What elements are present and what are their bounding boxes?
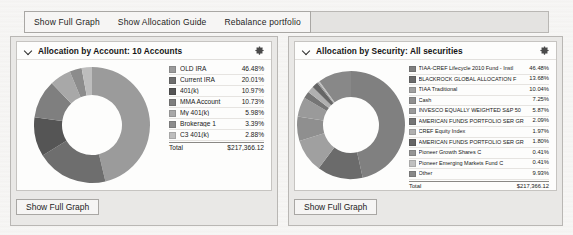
security-legend-value: 1.97% (524, 129, 549, 135)
account-swatch-icon (169, 132, 176, 139)
list-item[interactable]: My 401(k)5.98% (169, 108, 264, 119)
security-legend-label: Cash (419, 98, 525, 104)
account-legend-value: 2.88% (234, 132, 264, 139)
show-allocation-guide-button[interactable]: Show Allocation Guide (109, 11, 217, 33)
list-item[interactable]: Pioneer Growth Shares C0.41% (409, 148, 549, 159)
security-legend-value: 1.80% (524, 139, 549, 145)
security-legend-label: Pioneer Growth Shares C (419, 150, 525, 156)
security-panel-footer: Show Full Graph (294, 194, 557, 220)
security-legend-value: 2.09% (524, 118, 549, 124)
account-legend-label: Brokerage 1 (180, 121, 234, 128)
account-legend-label: MMA Account (180, 99, 234, 106)
account-swatch-icon (169, 121, 176, 128)
account-show-full-graph-button[interactable]: Show Full Graph (16, 199, 99, 215)
account-donut-chart[interactable] (33, 66, 151, 184)
list-item[interactable]: Cash7.25% (409, 96, 549, 107)
allocation-by-security-body: TIAA-CREF Lifecycle 2010 Fund - Instl46.… (295, 60, 556, 190)
list-item[interactable]: MMA Account10.73% (169, 97, 264, 108)
account-legend-value: 20.01% (234, 77, 264, 84)
security-legend-label: Other (419, 171, 525, 177)
list-item[interactable]: Brokerage 13.39% (169, 119, 264, 130)
account-legend-value: 3.39% (234, 121, 264, 128)
security-legend-value: 9.93% (524, 171, 549, 177)
security-show-full-graph-button[interactable]: Show Full Graph (294, 199, 377, 215)
security-swatch-icon (409, 150, 416, 157)
list-item[interactable]: TIAA Traditional10.04% (409, 85, 549, 96)
allocation-by-security-card: Allocation by Security: All securities T… (294, 41, 557, 191)
security-legend-value: 10.04% (524, 87, 549, 93)
account-swatch-icon (169, 99, 176, 106)
account-total-value: $217,366.12 (212, 145, 264, 152)
chevron-down-icon[interactable] (302, 46, 311, 55)
account-legend-value: 10.97% (234, 88, 264, 95)
security-swatch-icon (409, 76, 416, 83)
list-item[interactable]: Pioneer Emerging Markets Fund C0.41% (409, 159, 549, 170)
list-item[interactable]: Other9.93% (409, 169, 549, 180)
list-item[interactable]: CREF Equity Index1.97% (409, 127, 549, 138)
security-legend-label: INVESCO EQUALLY WEIGHTED S&P 50 (419, 108, 525, 114)
top-toolbar: Show Full Graph Show Allocation Guide Re… (24, 11, 549, 33)
account-legend-label: OLD IRA (180, 66, 234, 73)
allocation-by-account-panel: Allocation by Account: 10 Accounts OLD I… (10, 36, 278, 226)
list-item[interactable]: INVESCO EQUALLY WEIGHTED S&P 505.87% (409, 106, 549, 117)
account-legend: OLD IRA46.48%Current IRA20.01%401(k)10.9… (167, 60, 271, 190)
list-item[interactable]: TIAA-CREF Lifecycle 2010 Fund - Instl46.… (409, 64, 549, 75)
account-legend-value: 46.48% (234, 66, 264, 73)
allocation-by-account-body: OLD IRA46.48%Current IRA20.01%401(k)10.9… (17, 60, 271, 190)
security-legend-label: BLACKROCK GLOBAL ALLOCATION F (419, 77, 525, 83)
gear-icon[interactable] (539, 45, 550, 56)
allocation-by-account-card: Allocation by Account: 10 Accounts OLD I… (16, 41, 272, 191)
account-donut-chart-wrap (17, 60, 167, 190)
page-title: Allocation by Account: 10 Accounts (38, 46, 182, 56)
security-swatch-icon (409, 118, 416, 125)
security-donut-chart[interactable] (296, 70, 406, 180)
security-legend-value: 46.48% (524, 66, 549, 72)
account-swatch-icon (169, 77, 176, 84)
account-panel-footer: Show Full Graph (16, 194, 272, 220)
security-legend-label: CREF Equity Index (419, 129, 525, 135)
account-legend-label: My 401(k) (180, 110, 234, 117)
account-swatch-icon (169, 66, 176, 73)
security-legend-label: TIAA Traditional (419, 87, 525, 93)
security-legend-value: 0.41% (524, 150, 549, 156)
account-legend-label: C3 401(k) (180, 132, 234, 139)
page-title: Allocation by Security: All securities (316, 46, 463, 56)
security-total-row: Total $217,366.12 (409, 181, 549, 191)
security-total-value: $217,366.12 (501, 184, 549, 190)
security-legend-label: Pioneer Emerging Markets Fund C (419, 161, 525, 167)
chevron-down-icon[interactable] (24, 46, 33, 55)
security-swatch-icon (409, 139, 416, 146)
security-legend-value: 5.87% (524, 108, 549, 114)
security-legend-value: 13.68% (524, 76, 549, 82)
list-item[interactable]: BLACKROCK GLOBAL ALLOCATION F13.68% (409, 75, 549, 86)
security-total-label: Total (409, 184, 501, 190)
list-item[interactable]: OLD IRA46.48% (169, 64, 264, 75)
security-legend-value: 0.41% (524, 160, 549, 166)
gear-icon[interactable] (254, 45, 265, 56)
list-item[interactable]: AMERICAN FUNDS PORTFOLIO SER GR2.09% (409, 117, 549, 128)
security-swatch-icon (409, 160, 416, 167)
security-swatch-icon (409, 129, 416, 136)
security-donut-chart-wrap (295, 60, 407, 190)
account-legend-label: 401(k) (180, 88, 234, 95)
allocation-by-security-header: Allocation by Security: All securities (295, 42, 556, 60)
list-item[interactable]: C3 401(k)2.88% (169, 130, 264, 141)
security-swatch-icon (409, 66, 416, 73)
list-item[interactable]: Current IRA20.01% (169, 75, 264, 86)
rebalance-portfolio-button[interactable]: Rebalance portfolio (215, 11, 310, 33)
allocation-by-security-panel: Allocation by Security: All securities T… (288, 36, 563, 226)
security-swatch-icon (409, 171, 416, 178)
security-swatch-icon (409, 97, 416, 104)
account-swatch-icon (169, 110, 176, 117)
security-legend-label: AMERICAN FUNDS PORTFOLIO SER GR (419, 140, 525, 146)
show-full-graph-button[interactable]: Show Full Graph (24, 11, 110, 33)
security-swatch-icon (409, 108, 416, 115)
list-item[interactable]: 401(k)10.97% (169, 86, 264, 97)
account-legend-value: 10.73% (234, 99, 264, 106)
account-swatch-icon (169, 88, 176, 95)
security-legend: TIAA-CREF Lifecycle 2010 Fund - Instl46.… (407, 60, 556, 190)
list-item[interactable]: AMERICAN FUNDS PORTFOLIO SER GR1.80% (409, 138, 549, 149)
account-total-label: Total (169, 145, 212, 152)
security-legend-label: AMERICAN FUNDS PORTFOLIO SER GR (419, 119, 525, 125)
allocation-by-account-header: Allocation by Account: 10 Accounts (17, 42, 271, 60)
